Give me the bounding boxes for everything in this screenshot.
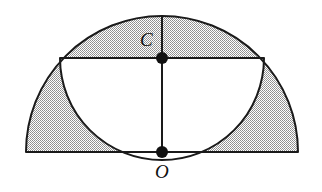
geometry-figure: C O (0, 0, 322, 192)
label-point-o: O (155, 162, 169, 181)
point-o-dot (156, 146, 168, 158)
label-point-c: C (140, 30, 153, 49)
point-c-dot (156, 52, 168, 64)
